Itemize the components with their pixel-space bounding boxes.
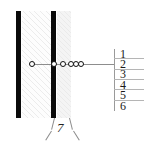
figure-canvas: 1 2 3 4 5 6 7: [0, 0, 144, 149]
callout-leader-stroke: [45, 131, 52, 141]
callout-list-item: 6: [114, 101, 144, 111]
bottom-callout-number: 7: [57, 121, 64, 134]
left-layer-bar: [16, 11, 21, 118]
callout-leader-stroke: [51, 118, 55, 130]
callout-leader-stroke: [73, 131, 80, 141]
callout-list-item: 4: [114, 80, 144, 90]
marker-dot-1: [29, 61, 35, 67]
callout-list-item: 2: [114, 59, 144, 69]
callout-number: 6: [120, 100, 126, 112]
callout-list-item: 5: [114, 90, 144, 100]
callout-list-item: 1: [114, 49, 144, 59]
callout-leader-stroke: [69, 118, 73, 130]
marker-dot-3: [60, 61, 66, 67]
marker-dot-6: [78, 61, 84, 67]
callout-list-item: 3: [114, 70, 144, 80]
callout-number-list: 1 2 3 4 5 6: [114, 49, 144, 111]
marker-dot-2: [51, 61, 57, 67]
